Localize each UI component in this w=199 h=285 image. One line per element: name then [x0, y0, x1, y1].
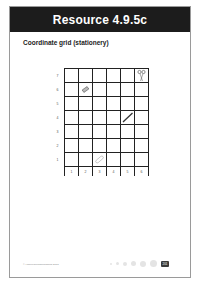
dot	[140, 261, 146, 267]
dot	[131, 261, 136, 266]
page-number: 201	[161, 261, 169, 267]
decorative-dots: 201	[110, 260, 169, 267]
copyright: © HarperCollinsPublishers 2018	[23, 263, 59, 266]
x-label: 2	[79, 167, 93, 177]
pencil-cell	[121, 111, 135, 125]
dot	[116, 262, 119, 265]
x-label: 6	[135, 167, 149, 177]
y-label: 1	[51, 153, 65, 167]
x-label: 5	[121, 167, 135, 177]
x-label: 4	[107, 167, 121, 177]
y-label: 4	[51, 111, 65, 125]
coordinate-grid: 7 6	[51, 68, 149, 176]
x-label: 1	[65, 167, 79, 177]
y-label: 3	[51, 125, 65, 139]
eraser-cell	[79, 83, 93, 97]
dot	[123, 262, 127, 266]
dot	[150, 260, 157, 267]
pencil-icon	[121, 111, 134, 124]
y-label: 5	[51, 97, 65, 111]
resource-page: Resource 4.9.5c Coordinate grid (station…	[9, 6, 191, 278]
paperclip-cell	[93, 153, 107, 167]
y-label: 6	[51, 83, 65, 97]
x-label: 3	[93, 167, 107, 177]
y-label: 7	[51, 69, 65, 83]
y-label: 2	[51, 139, 65, 153]
subtitle: Coordinate grid (stationery)	[23, 39, 109, 46]
dot	[110, 263, 112, 265]
scissors-icon	[135, 69, 148, 82]
scissors-cell	[135, 69, 149, 83]
paperclip-icon	[93, 153, 106, 166]
eraser-icon	[79, 83, 92, 96]
page-title: Resource 4.9.5c	[53, 13, 147, 27]
title-banner: Resource 4.9.5c	[10, 7, 190, 32]
